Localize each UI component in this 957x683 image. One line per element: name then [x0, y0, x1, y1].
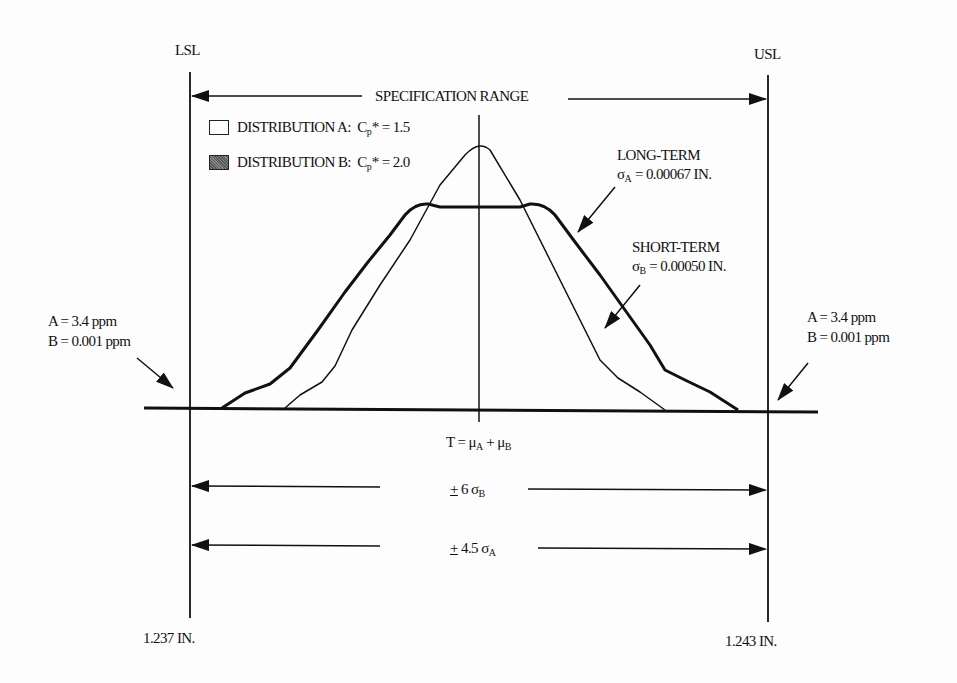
target-label: T = μA + μB [446, 434, 511, 455]
long-term-title: LONG-TERM [617, 147, 700, 164]
legend-swatch-b [209, 155, 229, 170]
left-tail-a: A = 3.4 ppm [48, 313, 117, 330]
lsl-value: 1.237 IN. [143, 630, 195, 647]
dim-45sigma-arrow-left [192, 545, 380, 546]
legend-label-a: DISTRIBUTION A: [237, 119, 351, 135]
spec-range-label: SPECIFICATION RANGE [375, 88, 528, 105]
legend-swatch-a [209, 120, 229, 135]
short-term-sigma: σB = 0.00050 IN. [632, 258, 726, 279]
distribution-b-curve [285, 146, 665, 410]
usl-value: 1.243 IN. [725, 633, 777, 650]
long-term-sigma: σA = 0.00067 IN. [617, 166, 711, 187]
legend-label-b: DISTRIBUTION B: [237, 154, 351, 170]
short-term-title: SHORT-TERM [632, 239, 720, 256]
long-term-arrow [578, 187, 615, 232]
distribution-a-curve [222, 204, 738, 410]
left-tail-b: B = 0.001 ppm [48, 333, 130, 350]
dim-45sigma-label: + 4.5 σA [450, 540, 496, 561]
legend-item-b: DISTRIBUTION B: Cp* = 2.0 [237, 154, 410, 175]
right-tail-a: A = 3.4 ppm [807, 309, 876, 326]
right-tail-b: B = 0.001 ppm [807, 329, 889, 346]
legend-cp-b: Cp* = 2.0 [357, 154, 409, 170]
dim-45sigma-arrow-right [538, 548, 766, 549]
lsl-label: LSL [175, 42, 200, 59]
dim-6sigma-label: + 6 σB [450, 481, 485, 502]
usl-label: USL [754, 46, 781, 63]
legend-item-a: DISTRIBUTION A: Cp* = 1.5 [237, 119, 410, 140]
dim-6sigma-arrow-left [192, 486, 380, 487]
right-tail-arrow [778, 363, 808, 400]
left-tail-arrow [137, 358, 173, 388]
legend-cp-a: Cp* = 1.5 [357, 119, 409, 135]
baseline-axis [144, 408, 818, 412]
dim-6sigma-arrow-right [528, 489, 766, 490]
